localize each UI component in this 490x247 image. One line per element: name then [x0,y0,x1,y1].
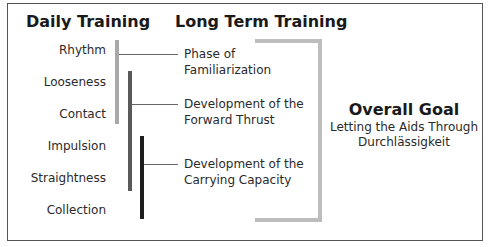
phase-carrying-capacity-line2: Carrying Capacity [184,172,304,188]
bracket-bottom [255,218,322,222]
phase-familiarization: Phase of Familiarization [184,46,271,78]
long-term-training-heading: Long Term Training [175,12,347,31]
phase-forward-thrust-line1: Development of the [184,96,304,112]
phase-carrying-capacity: Development of the Carrying Capacity [184,156,304,188]
daily-item-impulsion: Impulsion [16,139,106,153]
forward-thrust-bar [128,71,132,191]
familiarization-connector [119,54,178,55]
daily-item-contact: Contact [16,107,106,121]
forward-thrust-connector [132,104,178,105]
goal-line2: Durchlässigkeit [324,135,484,150]
daily-training-heading: Daily Training [26,12,150,31]
carrying-capacity-bar [140,136,144,219]
phase-carrying-capacity-line1: Development of the [184,156,304,172]
phase-forward-thrust: Development of the Forward Thrust [184,96,304,128]
daily-item-collection: Collection [16,203,106,217]
phase-forward-thrust-line2: Forward Thrust [184,112,304,128]
bracket-vertical [318,39,322,222]
overall-goal-title: Overall Goal [324,100,484,119]
familiarization-bar [115,40,119,124]
phase-familiarization-line1: Phase of [184,46,271,62]
goal-line1: Letting the Aids Through [324,120,484,135]
bracket-top [255,39,322,43]
daily-item-straightness: Straightness [16,171,106,185]
phase-familiarization-line2: Familiarization [184,62,271,78]
daily-item-rhythm: Rhythm [16,43,106,57]
overall-goal-description: Letting the Aids Through Durchlässigkeit [324,120,484,150]
carrying-capacity-connector [144,164,178,165]
daily-item-looseness: Looseness [16,75,106,89]
